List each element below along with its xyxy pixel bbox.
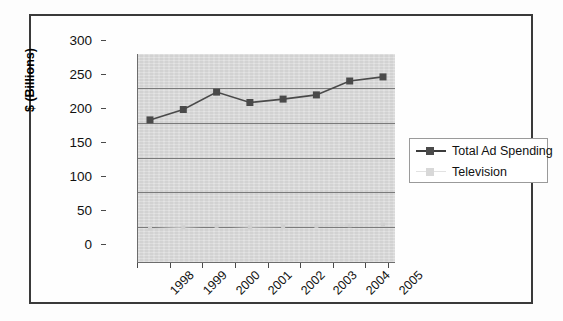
square-marker-icon [414,165,448,179]
series-data-point [246,99,253,106]
x-tick-mark [170,263,171,268]
series-data-point [213,89,220,96]
x-tick-label-1999: 1999 [200,268,230,298]
y-tick-label-0: 0 [52,238,92,252]
series-data-point [148,227,152,231]
series-data-point [346,78,353,85]
y-tick-mark [101,142,106,143]
series-data-point [313,91,320,98]
y-tick-label-50: 50 [52,204,92,218]
legend-marker-primary [426,147,434,155]
y-tick-mark [101,108,106,109]
y-tick-label-200: 200 [52,102,92,116]
series-data-point [280,96,287,103]
y-tick-mark [101,210,106,211]
x-tick-mark [300,263,301,268]
legend-entry-total-ad-spending[interactable]: Total Ad Spending [410,140,549,161]
series-data-point [181,225,185,229]
series-data-point [380,73,387,80]
series-data-point [180,106,187,113]
x-tick-label-2002: 2002 [298,268,328,298]
y-axis-title: $ (Billions) [23,48,37,112]
series-data-point [281,225,285,229]
x-tick-mark [333,263,334,268]
x-tick-label-2005: 2005 [396,268,426,298]
legend-entry-television[interactable]: Television [410,161,549,182]
square-marker-icon [414,144,448,158]
x-tick-label-2004: 2004 [363,268,393,298]
y-tick-mark [101,244,106,245]
series-data-point [248,225,252,229]
y-tick-label-300: 300 [52,34,92,48]
x-tick-mark [235,263,236,268]
x-tick-label-1998: 1998 [167,268,197,298]
chart-frame-border: $ (Billions) 300 250 200 150 100 50 0 [29,14,533,304]
y-tick-mark [101,40,106,41]
y-tick-label-150: 150 [52,136,92,150]
series-data-point [147,116,154,123]
chart-figure: $ (Billions) 300 250 200 150 100 50 0 [0,0,563,321]
y-tick-mark [101,176,106,177]
legend-marker-secondary [426,168,434,176]
x-tick-label-2001: 2001 [265,268,295,298]
data-series-layer [138,54,395,262]
legend-label-total-ad-spending: Total Ad Spending [452,144,553,158]
x-tick-label-2003: 2003 [330,268,360,298]
x-tick-mark [202,263,203,268]
legend-label-television: Television [452,165,507,179]
chart-legend: Total Ad Spending Television [409,138,548,183]
y-tick-mark [101,74,106,75]
x-tick-mark [268,263,269,268]
series-data-point [215,224,219,228]
x-tick-label-2000: 2000 [233,268,263,298]
x-tick-mark [365,263,366,268]
y-tick-label-250: 250 [52,68,92,82]
y-tick-label-100: 100 [52,170,92,184]
x-tick-mark [137,263,138,268]
series-data-point [314,224,318,228]
x-tick-mark [388,263,389,268]
series-data-point [381,223,385,227]
plot-area [137,54,395,263]
series-data-point [348,223,352,227]
